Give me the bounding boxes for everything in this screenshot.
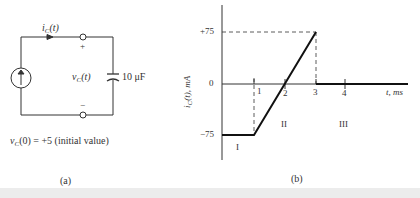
region-label-1: I: [236, 143, 239, 152]
y-tick-plus75: +75: [200, 27, 214, 36]
x-axis-label: t, ms: [386, 88, 403, 97]
caption-b: (b): [291, 174, 303, 184]
circuit-diagram: [11, 34, 119, 118]
x-tick-label-3: 3: [313, 88, 318, 97]
capacitor-value: 10 μF: [122, 72, 145, 82]
y-tick-minus75: −75: [200, 130, 214, 139]
x-tick-label-2: 2: [283, 89, 288, 98]
y-tick-0: 0: [209, 79, 214, 88]
chart-graphics: [222, 5, 408, 160]
terminal-top: [80, 34, 86, 40]
plus-sign: +: [80, 42, 85, 51]
x-tick-label-1: 1: [257, 87, 262, 96]
terminal-bottom: [80, 112, 86, 118]
current-label: iC(t): [42, 23, 59, 35]
caption-a: (a): [60, 176, 71, 186]
region-label-2: II: [281, 120, 287, 129]
y-axis-label: iC(t), mA: [183, 76, 194, 108]
x-tick-label-4: 4: [342, 89, 347, 98]
initial-condition: vC(0) = +5 (initial value): [10, 136, 109, 148]
voltage-label: vC(t): [72, 72, 91, 84]
region-label-3: III: [339, 120, 348, 129]
minus-sign: −: [80, 101, 85, 110]
current-direction-arrow-icon: [47, 35, 53, 40]
